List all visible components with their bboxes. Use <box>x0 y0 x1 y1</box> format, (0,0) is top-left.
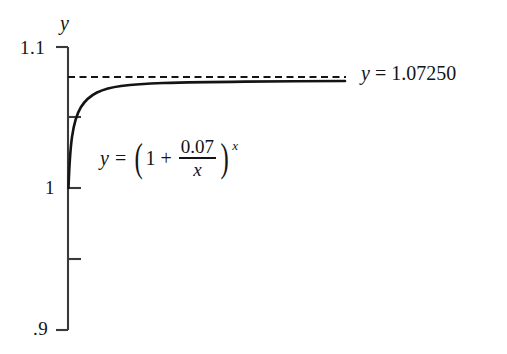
asymptote-value-label: y=1.07250 <box>361 63 456 83</box>
asymptote-label-value: 1.07250 <box>391 62 456 84</box>
figure-container: y 1.1 1 .9 y=1.07250 y = ( 1 + 0.07 x ) … <box>0 0 507 354</box>
equation-equals: = <box>115 148 126 168</box>
y-axis-label: y <box>60 13 69 33</box>
tick-label-middle: 1 <box>45 178 55 197</box>
equation-plus: + <box>161 148 172 168</box>
asymptote-label-variable: y <box>361 62 370 84</box>
equation-fraction: 0.07 x <box>179 137 216 179</box>
equation-exponent: x <box>232 139 238 152</box>
equation-open-paren: ( <box>135 142 143 173</box>
equation-variable: y <box>100 148 109 168</box>
equation-one: 1 <box>146 148 156 168</box>
tick-label-bottom: .9 <box>33 319 48 338</box>
plot-area <box>0 0 507 354</box>
curve-equation-annotation: y = ( 1 + 0.07 x ) x <box>100 137 238 179</box>
asymptote-label-equals: = <box>375 62 386 84</box>
equation-close-paren: ) <box>221 142 229 173</box>
equation-denominator: x <box>191 159 203 179</box>
tick-label-top: 1.1 <box>20 38 45 57</box>
equation-numerator: 0.07 <box>179 137 216 157</box>
